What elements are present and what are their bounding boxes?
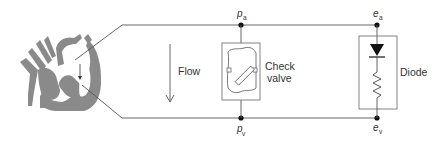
leader-line-top bbox=[75, 25, 122, 60]
valve-seat-left bbox=[227, 68, 231, 72]
diode-label: Diode bbox=[400, 66, 428, 78]
label-ea-subscript: a bbox=[379, 14, 383, 21]
check-valve-label-line2: valve bbox=[267, 72, 292, 84]
label-pv-subscript: v bbox=[242, 130, 246, 137]
resistor-icon bbox=[373, 72, 381, 98]
flow-label: Flow bbox=[178, 65, 201, 77]
label-pa-symbol: p bbox=[236, 8, 243, 19]
diode-symbol-icon bbox=[370, 44, 384, 56]
label-pa-subscript: a bbox=[243, 14, 247, 21]
label-ev-subscript: v bbox=[379, 128, 383, 135]
check-valve: Check valve bbox=[222, 22, 296, 120]
check-valve-label-line1: Check bbox=[265, 60, 296, 72]
valve-flap-icon bbox=[235, 66, 254, 85]
diode-circuit: Diode bbox=[359, 22, 428, 120]
heart-valve-diode-analogy-diagram: Flow Check valve p a p v Diode e a e v bbox=[0, 0, 445, 142]
